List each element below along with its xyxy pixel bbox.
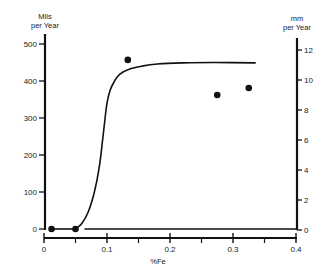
series-layer: [48, 57, 296, 233]
trend-curve: [76, 63, 256, 230]
y2-tick-label: 6: [304, 136, 309, 145]
y-axis-label-line2: per Year: [31, 21, 59, 30]
y-tick-label: 100: [24, 188, 38, 197]
x-axis-label: %Fe: [150, 257, 165, 266]
data-point: [245, 85, 252, 92]
y2-axis-label-line2: per Year: [283, 23, 311, 32]
y2-tick-label: 2: [304, 196, 309, 205]
x-tick-label: 0: [42, 245, 47, 254]
data-point: [124, 57, 131, 64]
x-tick-label: 0.4: [290, 245, 302, 254]
y2-tick-label: 0: [304, 226, 309, 235]
corrosion-rate-chart: 010020030040050002468101200.10.20.30.4 M…: [0, 0, 335, 277]
y2-axis-label-line1: mm: [291, 14, 304, 23]
y2-tick-label: 10: [304, 76, 313, 85]
y-tick-label: 500: [24, 40, 38, 49]
y2-tick-label: 8: [304, 106, 309, 115]
x-tick-label: 0.1: [101, 245, 113, 254]
y2-tick-label: 4: [304, 166, 309, 175]
y-tick-label: 300: [24, 114, 38, 123]
x-tick-label: 0.2: [164, 245, 176, 254]
y-axis-label-line1: Mils: [38, 12, 52, 21]
y-tick-label: 400: [24, 77, 38, 86]
y-tick-label: 200: [24, 151, 38, 160]
y2-tick-label: 12: [304, 46, 313, 55]
axes: 010020030040050002468101200.10.20.30.4: [24, 34, 314, 254]
data-point: [214, 92, 221, 99]
y-tick-label: 0: [33, 225, 38, 234]
x-tick-label: 0.3: [227, 245, 239, 254]
